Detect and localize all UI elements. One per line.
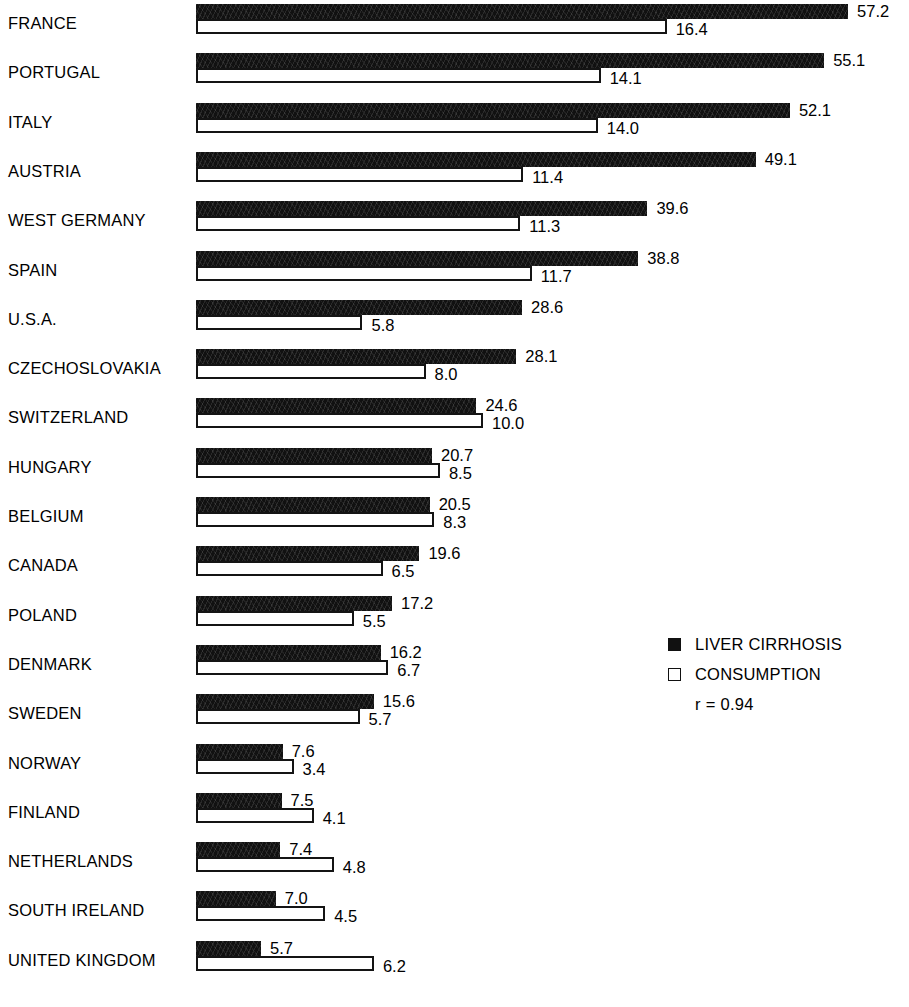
value-label-liver-cirrhosis: 15.6	[383, 693, 415, 710]
category-label: AUSTRIA	[8, 162, 188, 181]
correlation-annotation: r = 0.94	[695, 695, 754, 714]
bar-liver-cirrhosis	[196, 645, 381, 660]
category-label: PORTUGAL	[8, 63, 188, 82]
bar-liver-cirrhosis	[196, 349, 516, 364]
chart-row: SWEDEN15.65.7	[0, 692, 909, 736]
category-label: SPAIN	[8, 261, 188, 280]
category-label: SWITZERLAND	[8, 408, 188, 427]
bar-consumption	[196, 906, 325, 921]
bar-consumption	[196, 561, 383, 576]
bar-liver-cirrhosis	[196, 251, 638, 266]
category-label: FINLAND	[8, 803, 188, 822]
chart-row: PORTUGAL55.114.1	[0, 51, 909, 95]
bar-consumption	[196, 118, 598, 133]
value-label-liver-cirrhosis: 7.6	[292, 743, 315, 760]
bar-consumption	[196, 759, 294, 774]
chart-row: SWITZERLAND24.610.0	[0, 396, 909, 440]
category-label: HUNGARY	[8, 458, 188, 477]
bar-consumption	[196, 709, 360, 724]
value-label-liver-cirrhosis: 20.7	[441, 447, 473, 464]
bar-liver-cirrhosis	[196, 152, 756, 167]
value-label-consumption: 16.4	[676, 21, 708, 38]
value-label-consumption: 5.7	[369, 711, 392, 728]
value-label-liver-cirrhosis: 16.2	[390, 644, 422, 661]
bar-liver-cirrhosis	[196, 546, 419, 561]
value-label-consumption: 6.2	[383, 958, 406, 975]
bar-consumption	[196, 19, 667, 34]
bar-liver-cirrhosis	[196, 694, 374, 709]
value-label-liver-cirrhosis: 5.7	[270, 940, 293, 957]
bar-consumption	[196, 808, 314, 823]
bar-liver-cirrhosis	[196, 4, 848, 19]
chart-legend: LIVER CIRRHOSIS CONSUMPTION r = 0.94	[668, 633, 898, 693]
bar-consumption	[196, 611, 354, 626]
bar-liver-cirrhosis	[196, 497, 430, 512]
legend-label-liver-cirrhosis: LIVER CIRRHOSIS	[695, 635, 842, 654]
bar-consumption	[196, 167, 523, 182]
chart-row: SPAIN38.811.7	[0, 249, 909, 293]
category-label: WEST GERMANY	[8, 211, 188, 230]
bar-consumption	[196, 216, 520, 231]
chart-row: FINLAND7.54.1	[0, 791, 909, 835]
value-label-liver-cirrhosis: 28.1	[525, 348, 557, 365]
bar-liver-cirrhosis	[196, 842, 280, 857]
bar-chart: FRANCE57.216.4PORTUGAL55.114.1ITALY52.11…	[0, 0, 909, 1007]
bar-consumption	[196, 68, 601, 83]
bar-consumption	[196, 512, 434, 527]
hollow-square-icon	[668, 668, 681, 681]
value-label-consumption: 10.0	[492, 415, 524, 432]
value-label-liver-cirrhosis: 17.2	[401, 595, 433, 612]
value-label-consumption: 6.5	[392, 563, 415, 580]
legend-label-consumption: CONSUMPTION	[695, 665, 821, 684]
bar-liver-cirrhosis	[196, 398, 476, 413]
chart-row: ITALY52.114.0	[0, 101, 909, 145]
value-label-liver-cirrhosis: 7.0	[285, 890, 308, 907]
category-label: SWEDEN	[8, 704, 188, 723]
bar-liver-cirrhosis	[196, 596, 392, 611]
category-label: DENMARK	[8, 655, 188, 674]
bar-liver-cirrhosis	[196, 53, 824, 68]
category-label: SOUTH IRELAND	[8, 901, 188, 920]
value-label-liver-cirrhosis: 20.5	[439, 496, 471, 513]
chart-row: POLAND17.25.5	[0, 594, 909, 638]
chart-row: HUNGARY20.78.5	[0, 446, 909, 490]
category-label: ITALY	[8, 113, 188, 132]
value-label-liver-cirrhosis: 7.5	[291, 792, 314, 809]
legend-item-liver-cirrhosis: LIVER CIRRHOSIS	[668, 633, 898, 663]
chart-row: UNITED KINGDOM5.76.2	[0, 939, 909, 983]
bar-consumption	[196, 956, 374, 971]
value-label-liver-cirrhosis: 7.4	[289, 841, 312, 858]
value-label-consumption: 11.4	[532, 169, 563, 186]
value-label-consumption: 14.1	[610, 70, 642, 87]
bar-liver-cirrhosis	[196, 941, 261, 956]
value-label-liver-cirrhosis: 24.6	[485, 397, 517, 414]
bar-consumption	[196, 364, 426, 379]
category-label: BELGIUM	[8, 507, 188, 526]
legend-item-consumption: CONSUMPTION	[668, 663, 898, 693]
category-label: NORWAY	[8, 754, 188, 773]
bar-liver-cirrhosis	[196, 891, 276, 906]
chart-row: SOUTH IRELAND7.04.5	[0, 889, 909, 933]
value-label-liver-cirrhosis: 49.1	[765, 151, 797, 168]
value-label-liver-cirrhosis: 57.2	[857, 3, 889, 20]
value-label-consumption: 8.5	[449, 465, 472, 482]
value-label-consumption: 4.5	[334, 908, 357, 925]
value-label-liver-cirrhosis: 38.8	[647, 250, 679, 267]
value-label-consumption: 5.8	[371, 317, 394, 334]
chart-row: AUSTRIA49.111.4	[0, 150, 909, 194]
bar-liver-cirrhosis	[196, 201, 647, 216]
value-label-consumption: 4.8	[343, 859, 366, 876]
bar-liver-cirrhosis	[196, 300, 522, 315]
value-label-consumption: 8.3	[443, 514, 466, 531]
value-label-consumption: 11.7	[541, 268, 572, 285]
chart-row: CANADA19.66.5	[0, 544, 909, 588]
value-label-liver-cirrhosis: 19.6	[428, 545, 460, 562]
chart-row: FRANCE57.216.4	[0, 2, 909, 46]
value-label-liver-cirrhosis: 39.6	[656, 200, 688, 217]
chart-row: NETHERLANDS7.44.8	[0, 840, 909, 884]
value-label-consumption: 6.7	[397, 662, 420, 679]
bar-consumption	[196, 413, 483, 428]
value-label-consumption: 5.5	[363, 613, 386, 630]
category-label: UNITED KINGDOM	[8, 951, 188, 970]
value-label-consumption: 14.0	[607, 120, 639, 137]
